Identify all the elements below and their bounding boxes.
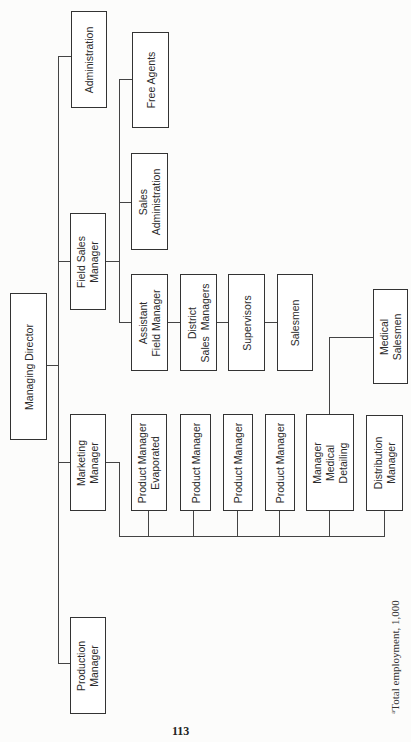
node-label: Product Manager bbox=[189, 422, 202, 503]
footnote: aTotal employment, 1,000 bbox=[389, 600, 402, 714]
connector-supervisors-salesmen bbox=[265, 322, 277, 323]
connector-fsm-out bbox=[106, 261, 120, 262]
page-number: 113 bbox=[172, 724, 189, 739]
node-label: Sales Administration bbox=[137, 168, 163, 235]
connector-assistant-district bbox=[168, 322, 180, 323]
connector-free-agents bbox=[119, 79, 132, 80]
node-label: Product Manager Evaporated bbox=[136, 422, 162, 503]
connector-mm-out bbox=[106, 462, 120, 463]
node-free-agents: Free Agents bbox=[132, 32, 169, 128]
connector-pm-3 bbox=[279, 510, 280, 537]
connector-md bbox=[46, 365, 59, 366]
node-marketing-manager: Marketing Manager bbox=[70, 414, 106, 511]
footnote-text: Total employment, 1,000 bbox=[389, 600, 401, 710]
node-label: Distribution Manager bbox=[372, 437, 398, 490]
trunk-line bbox=[58, 56, 59, 664]
node-distribution-manager: Distribution Manager bbox=[366, 415, 403, 511]
fsm-branch-line bbox=[119, 79, 120, 323]
node-manager-medical-detailing: Manager Medical Detailing bbox=[306, 414, 354, 511]
node-administration: Administration bbox=[71, 11, 107, 108]
node-label: Managing Director bbox=[22, 324, 35, 410]
connector-mmd-up bbox=[329, 337, 330, 415]
connector-administration bbox=[58, 56, 71, 57]
node-product-manager-2: Product Manager bbox=[223, 414, 253, 511]
footnote-marker: a bbox=[389, 711, 397, 714]
node-label: Field Sales Manager bbox=[75, 236, 101, 288]
org-chart-page: Managing Director Administration Field S… bbox=[0, 0, 411, 742]
node-label: Medical Salesmen bbox=[378, 313, 404, 360]
node-medical-salesmen: Medical Salesmen bbox=[373, 289, 408, 384]
node-district-sales-managers: District Sales Managers bbox=[180, 274, 217, 371]
node-managing-director: Managing Director bbox=[10, 293, 47, 440]
connector-mmd bbox=[329, 510, 330, 537]
node-label: Manager Medical Detailing bbox=[311, 442, 350, 483]
node-field-sales-manager: Field Sales Manager bbox=[70, 213, 106, 310]
node-salesmen: Salesmen bbox=[277, 274, 313, 371]
connector-distribution bbox=[384, 510, 385, 537]
node-label: Salesmen bbox=[289, 299, 302, 346]
node-label: Administration bbox=[83, 26, 96, 93]
node-label: Supervisors bbox=[240, 295, 253, 350]
node-label: Marketing Manager bbox=[75, 439, 101, 485]
connector-district-supervisors bbox=[217, 322, 228, 323]
connector-medical-salesmen bbox=[329, 337, 374, 338]
node-label: Production Manager bbox=[75, 640, 101, 690]
node-label: District Sales Managers bbox=[186, 283, 212, 362]
node-label: Free Agents bbox=[144, 52, 157, 109]
node-sales-administration: Sales Administration bbox=[131, 153, 168, 250]
connector-pm-evap bbox=[148, 510, 149, 537]
node-label: Assistant Field Manager bbox=[137, 289, 163, 356]
mm-branch-line bbox=[119, 462, 120, 537]
node-product-manager-evaporated: Product Manager Evaporated bbox=[131, 414, 167, 511]
node-assistant-field-manager: Assistant Field Manager bbox=[131, 274, 168, 371]
node-production-manager: Production Manager bbox=[70, 617, 106, 714]
connector-pm-2 bbox=[237, 510, 238, 537]
node-label: Product Manager bbox=[232, 422, 245, 503]
node-supervisors: Supervisors bbox=[228, 274, 265, 371]
mm-bus-line bbox=[119, 536, 385, 537]
node-label: Product Manager bbox=[274, 422, 287, 503]
node-product-manager-1: Product Manager bbox=[180, 414, 211, 511]
connector-pm-1 bbox=[193, 510, 194, 537]
node-product-manager-3: Product Manager bbox=[265, 414, 295, 511]
